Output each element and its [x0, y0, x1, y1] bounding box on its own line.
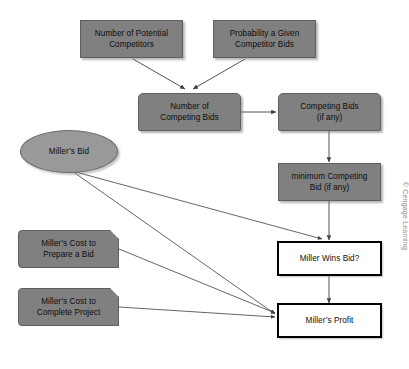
node-minimum-competing-bid-if-any[interactable]: minimum Competing Bid (if any) — [278, 163, 381, 201]
node-label: Miller Wins Bid? — [279, 253, 380, 264]
node-label: Competing Bids (if any) — [279, 101, 380, 123]
node-label: minimum Competing Bid (if any) — [279, 171, 380, 193]
node-label: Number of Competing Bids — [139, 101, 240, 123]
node-millers-bid[interactable]: Miller’s Bid — [20, 130, 118, 173]
copyright-notice: © Cengage Learning — [402, 182, 409, 250]
diagram-canvas: Number of Potential Competitors Probabil… — [0, 0, 409, 369]
node-label: Miller’s Cost to Prepare a Bid — [19, 238, 118, 260]
node-label: Number of Potential Competitors — [81, 28, 182, 50]
node-label: Miller’s Bid — [21, 146, 117, 157]
edge-cost-complete-project-to-millers-profit — [119, 307, 275, 317]
edge-potential-competitors-to-number-competing-bids — [133, 59, 185, 89]
node-millers-cost-to-prepare-a-bid[interactable]: Miller’s Cost to Prepare a Bid — [18, 230, 119, 268]
node-competing-bids-if-any[interactable]: Competing Bids (if any) — [278, 93, 381, 131]
node-label: Miller’s Profit — [279, 315, 380, 326]
node-miller-wins-bid[interactable]: Miller Wins Bid? — [277, 241, 382, 276]
node-millers-cost-to-complete-project[interactable]: Miller’s Cost to Complete Project — [18, 288, 119, 326]
node-probability-a-given-competitor-bids[interactable]: Probability a Given Competitor Bids — [213, 20, 316, 58]
node-label: Probability a Given Competitor Bids — [214, 28, 315, 50]
node-millers-profit[interactable]: Miller’s Profit — [277, 303, 382, 338]
node-number-of-competing-bids[interactable]: Number of Competing Bids — [138, 93, 241, 131]
node-number-of-potential-competitors[interactable]: Number of Potential Competitors — [80, 20, 183, 58]
node-label: Miller’s Cost to Complete Project — [19, 296, 118, 318]
edge-cost-prepare-bid-to-millers-profit — [119, 249, 275, 313]
edge-probability-bids-to-number-competing-bids — [193, 59, 245, 89]
